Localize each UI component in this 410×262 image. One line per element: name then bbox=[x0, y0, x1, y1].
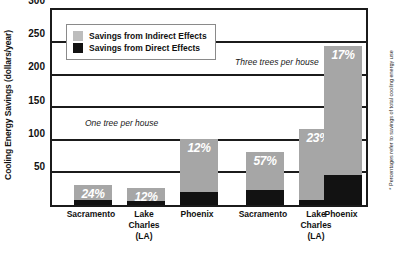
bar-data-label: 57% bbox=[246, 154, 284, 168]
bar-segment-indirect[interactable]: 12% bbox=[127, 188, 165, 201]
chart-legend: Savings from Indirect Effects Savings fr… bbox=[66, 24, 216, 60]
bar-phoenix-one-tree[interactable]: 12% bbox=[180, 139, 218, 205]
x-axis-category-labels: Sacramento Lake Charles (LA) Phoenix Sac… bbox=[50, 209, 368, 261]
y-axis-title: Cooling Energy Savings (dollars/year) bbox=[0, 0, 16, 210]
group-note-one-tree: One tree per house bbox=[85, 118, 158, 128]
bar-segment-indirect[interactable]: 12% bbox=[180, 139, 218, 192]
y-tick-label: 300 bbox=[28, 0, 45, 6]
gridline-150 bbox=[52, 106, 366, 108]
y-tick-label: 50 bbox=[34, 160, 45, 171]
x-label-lake-charles-one-tree: Lake Charles (LA) bbox=[114, 209, 174, 242]
bar-segment-direct[interactable] bbox=[246, 190, 284, 205]
bar-data-label: 24% bbox=[74, 187, 112, 201]
legend-swatch-direct-icon bbox=[73, 43, 83, 53]
y-axis-title-text: Cooling Energy Savings (dollars/year) bbox=[3, 30, 13, 180]
bar-data-label: 17% bbox=[324, 48, 362, 62]
bar-sacramento-one-tree[interactable]: 24% bbox=[74, 185, 112, 205]
y-tick-label: 250 bbox=[28, 28, 45, 39]
chart-footnote: * Percentages refer to savings of total … bbox=[372, 0, 410, 240]
legend-item-indirect[interactable]: Savings from Indirect Effects bbox=[73, 31, 207, 41]
x-label-phoenix-one-tree: Phoenix bbox=[167, 209, 227, 220]
x-label-phoenix-three-trees: Phoenix bbox=[311, 209, 371, 220]
x-label-line: (LA) bbox=[286, 231, 346, 242]
x-label-line: Sacramento bbox=[61, 209, 121, 220]
footnote-text: * Percentages refer to savings of total … bbox=[388, 50, 394, 189]
x-label-line: Charles bbox=[286, 220, 346, 231]
bar-segment-direct[interactable] bbox=[324, 175, 362, 205]
y-axis-tick-labels: 300 250 200 150 100 50 bbox=[16, 0, 48, 210]
x-label-line: Phoenix bbox=[167, 209, 227, 220]
y-tick-label: 100 bbox=[28, 127, 45, 138]
bar-segment-indirect[interactable]: 57% bbox=[246, 152, 284, 191]
x-label-sacramento-one-tree: Sacramento bbox=[61, 209, 121, 220]
bar-phoenix-three-trees[interactable]: 17% bbox=[324, 46, 362, 205]
x-label-line: Charles bbox=[114, 220, 174, 231]
legend-swatch-indirect-icon bbox=[73, 31, 83, 41]
bar-segment-direct[interactable] bbox=[180, 192, 218, 205]
bar-data-label: 12% bbox=[127, 190, 165, 204]
group-note-three-trees: Three trees per house bbox=[235, 57, 319, 67]
legend-label: Savings from Direct Effects bbox=[89, 43, 200, 53]
x-label-line: Sacramento bbox=[233, 209, 293, 220]
x-label-sacramento-three-trees: Sacramento bbox=[233, 209, 293, 220]
bar-data-label: 12% bbox=[180, 141, 218, 155]
bar-lake-charles-one-tree[interactable]: 12% bbox=[127, 188, 165, 205]
legend-item-direct[interactable]: Savings from Direct Effects bbox=[73, 43, 207, 53]
y-tick-label: 200 bbox=[28, 61, 45, 72]
bar-segment-indirect[interactable]: 24% bbox=[74, 185, 112, 200]
bar-segment-indirect[interactable]: 17% bbox=[324, 46, 362, 175]
x-label-line: Lake bbox=[114, 209, 174, 220]
chart-plot-area: One tree per house Three trees per house… bbox=[50, 8, 368, 207]
bar-sacramento-three-trees[interactable]: 57% bbox=[246, 152, 284, 205]
legend-label: Savings from Indirect Effects bbox=[89, 31, 207, 41]
x-label-line: (LA) bbox=[114, 231, 174, 242]
x-label-line: Phoenix bbox=[311, 209, 371, 220]
gridline-200 bbox=[52, 74, 366, 76]
y-tick-label: 150 bbox=[28, 94, 45, 105]
